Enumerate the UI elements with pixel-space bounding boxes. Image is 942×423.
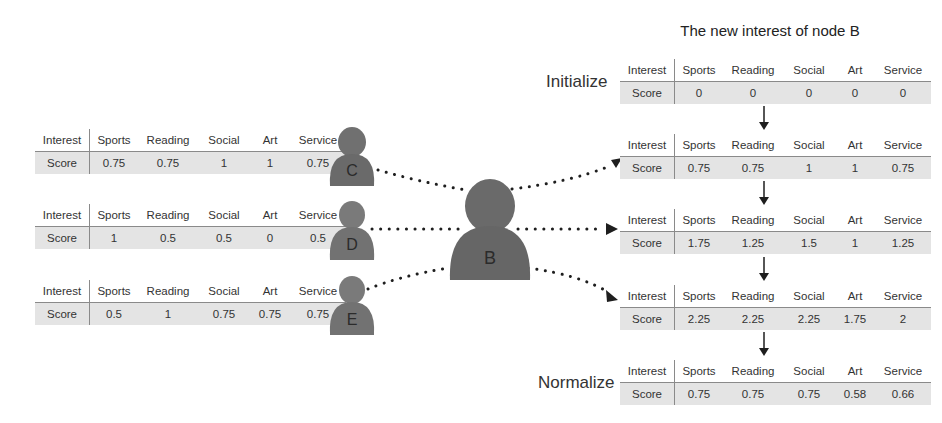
header-cell: Service (875, 134, 931, 157)
header-cell: Social (783, 360, 835, 383)
header-cell: Sports (675, 285, 724, 308)
score-label: Score (35, 303, 90, 326)
header-cell: Sports (675, 59, 724, 82)
step-table-add-c: Interest Sports Reading Social Art Servi… (620, 134, 931, 179)
header-cell: Sports (90, 280, 139, 303)
header-cell: Social (783, 134, 835, 157)
header-cell: Sports (675, 134, 724, 157)
header-cell: Reading (723, 285, 783, 308)
down-arrow-1 (759, 122, 769, 130)
header-cell: Art (835, 285, 875, 308)
score-cell: 0.75 (90, 152, 139, 175)
score-cell: 0 (783, 82, 835, 105)
score-cell: 0 (250, 227, 290, 250)
score-cell: 0 (723, 82, 783, 105)
score-cell: 0.5 (138, 227, 198, 250)
score-cell: 0.75 (198, 303, 250, 326)
score-cell: 0.5 (198, 227, 250, 250)
header-cell: Art (835, 134, 875, 157)
header-cell: Reading (138, 204, 198, 227)
header-cell: Art (835, 209, 875, 232)
down-arrow-3 (759, 273, 769, 281)
score-cell: 0.5 (90, 303, 139, 326)
header-cell: Social (198, 280, 250, 303)
header-cell: Interest (35, 280, 90, 303)
score-cell: 2 (875, 308, 931, 331)
step-table-add-d: Interest Sports Reading Social Art Servi… (620, 209, 931, 254)
score-label: Score (620, 157, 675, 180)
arrowhead-step4 (606, 290, 618, 302)
diagram-title: The new interest of node B (640, 22, 900, 39)
score-cell: 1 (198, 152, 250, 175)
step-label-initialize: Initialize (546, 72, 607, 92)
score-cell: 2.25 (675, 308, 724, 331)
neighbor-table-c: Interest Sports Reading Social Art Servi… (35, 129, 346, 174)
score-cell: 2.25 (723, 308, 783, 331)
header-cell: Interest (620, 360, 675, 383)
score-cell: 0 (675, 82, 724, 105)
score-cell: 0.75 (138, 152, 198, 175)
score-cell: 1 (835, 232, 875, 255)
score-cell: 0.75 (675, 157, 724, 180)
down-arrow-4 (759, 348, 769, 356)
score-cell: 0.58 (835, 383, 875, 406)
edge-e-to-b (368, 268, 448, 289)
header-cell: Interest (620, 134, 675, 157)
header-cell: Art (835, 59, 875, 82)
header-cell: Art (250, 129, 290, 152)
score-cell: 2.25 (783, 308, 835, 331)
score-label: Score (35, 152, 90, 175)
header-cell: Service (875, 209, 931, 232)
score-label: Score (620, 82, 675, 105)
header-cell: Interest (620, 209, 675, 232)
score-cell: 1 (90, 227, 139, 250)
score-cell: 0.75 (250, 303, 290, 326)
header-cell: Art (250, 280, 290, 303)
edge-b-to-step4 (528, 268, 608, 292)
neighbor-table-e: Interest Sports Reading Social Art Servi… (35, 280, 346, 325)
score-cell: 1.25 (875, 232, 931, 255)
person-node-b: B (448, 178, 532, 280)
header-cell: Interest (620, 285, 675, 308)
node-label: E (328, 311, 376, 329)
header-cell: Reading (723, 134, 783, 157)
arrowhead-step3 (606, 223, 618, 235)
score-cell: 1.75 (835, 308, 875, 331)
score-cell: 1.25 (723, 232, 783, 255)
score-cell: 1.5 (783, 232, 835, 255)
score-cell: 0.66 (875, 383, 931, 406)
header-cell: Social (783, 285, 835, 308)
score-cell: 0.75 (783, 383, 835, 406)
score-label: Score (620, 383, 675, 406)
person-node-c: C (328, 124, 376, 186)
header-cell: Interest (35, 204, 90, 227)
header-cell: Reading (138, 280, 198, 303)
score-cell: 0 (835, 82, 875, 105)
score-cell: 1 (138, 303, 198, 326)
header-cell: Reading (723, 209, 783, 232)
header-cell: Social (783, 59, 835, 82)
score-label: Score (35, 227, 90, 250)
header-cell: Social (783, 209, 835, 232)
node-label: B (448, 248, 532, 269)
score-cell: 1.75 (675, 232, 724, 255)
neighbor-table-d: Interest Sports Reading Social Art Servi… (35, 204, 346, 249)
header-cell: Reading (723, 360, 783, 383)
header-cell: Sports (675, 209, 724, 232)
step-label-normalize: Normalize (538, 373, 615, 393)
header-cell: Sports (675, 360, 724, 383)
person-node-e: E (328, 273, 376, 335)
header-cell: Sports (90, 204, 139, 227)
header-cell: Sports (90, 129, 139, 152)
score-cell: 0.75 (723, 383, 783, 406)
person-node-d: D (328, 198, 376, 260)
down-arrow-2 (759, 197, 769, 205)
score-label: Score (620, 232, 675, 255)
step-table-normalize: Interest Sports Reading Social Art Servi… (620, 360, 931, 405)
header-cell: Social (198, 204, 250, 227)
score-label: Score (620, 308, 675, 331)
header-cell: Art (250, 204, 290, 227)
node-label: D (328, 236, 376, 254)
header-cell: Interest (620, 59, 675, 82)
header-cell: Service (875, 59, 931, 82)
